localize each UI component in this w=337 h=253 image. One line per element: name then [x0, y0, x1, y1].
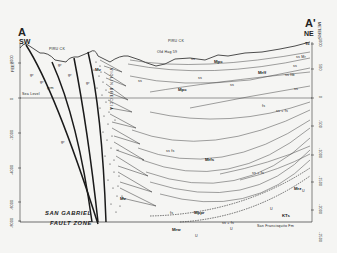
unconformity-u-label: U	[230, 228, 233, 232]
piru-ck-left-label: PIRU CK	[49, 48, 65, 52]
right-axis-unit: METERS	[317, 22, 321, 39]
unit-ss-fs-label: ss + fs	[276, 110, 288, 114]
unit-mrfs-label: Mrfs	[205, 158, 214, 162]
endpoint-a-label: A	[18, 27, 26, 38]
unit-mv-lower-label: Mv	[120, 197, 126, 201]
unit-ss-ftb-label: ss ftb	[285, 74, 295, 78]
right-tick: -2000	[317, 204, 321, 214]
left-axis	[18, 44, 21, 222]
left-tick: -4000	[11, 165, 15, 175]
fault-zone-label-line2: FAULT ZONE	[50, 221, 92, 227]
violin-breccia-label: VIOLIN BRECCIA	[108, 68, 112, 111]
unit-ss-label: fs	[262, 105, 265, 109]
left-tick: -8000	[11, 218, 15, 228]
direction-ne-label: NE	[304, 30, 314, 37]
unit-gr-label: gr	[68, 74, 72, 78]
unit-ss-label: ss	[230, 84, 234, 88]
unconformity-u-label: U	[270, 208, 273, 212]
left-tick: -6000	[11, 200, 15, 210]
unit-mpc-top-label: Mpc	[214, 60, 223, 64]
right-tick: -1500	[317, 176, 321, 186]
fault-zone-label-line1: SAN GABRIEL	[45, 211, 92, 217]
unit-mrw-label: Mrw	[172, 228, 181, 232]
unconformity-u-label: U	[302, 190, 305, 194]
unit-ss-fs-label: ss + fs	[252, 172, 264, 176]
left-tick: -2000	[11, 130, 15, 140]
unit-ss-label: fs	[170, 212, 173, 216]
unit-gr-label: gr	[58, 64, 62, 68]
endpoint-a-prime-label: A'	[305, 18, 316, 29]
right-axis	[311, 42, 314, 222]
right-tick: 1000	[317, 38, 321, 47]
unit-ss-label: ss	[138, 80, 142, 84]
direction-sw-label: SW	[19, 38, 30, 45]
unit-gr-label: gr	[86, 82, 90, 86]
unit-grm-label: grm	[47, 87, 54, 91]
unit-mv-upper-label: Mv	[95, 68, 101, 72]
sea-level-label: Sea Level	[22, 93, 40, 97]
cross-section-figure: A SW A' NE FEET METERS 2000 0 -2000 -400…	[0, 0, 337, 253]
unit-mrz-label: Mrz	[294, 187, 301, 191]
unit-ss-label: ss	[198, 77, 202, 81]
unit-ss-label: ss	[294, 88, 298, 92]
unit-mrff-label: Mrff	[258, 71, 266, 75]
unit-mppr-label: Mppr	[194, 211, 205, 215]
unconformity-u-label: U	[195, 235, 198, 239]
right-tick: -500	[317, 120, 321, 128]
san-francisquito-label: San Francisquito Fm	[257, 225, 294, 229]
unit-tc-label: Tc	[305, 42, 310, 46]
unit-ss-label: ss	[293, 65, 297, 69]
right-tick: -2500	[317, 232, 321, 242]
strata-lines	[128, 52, 310, 202]
unit-ss-label: ss	[191, 58, 195, 62]
left-tick: 2000	[11, 55, 15, 64]
well-label: Old Hag 59	[157, 51, 177, 55]
unit-ss-mr-label: ss Mr	[296, 56, 306, 60]
piru-ck-right-label: PIRU CK	[168, 40, 184, 44]
unit-ss-fs-label: ss + fs	[222, 222, 234, 226]
unit-kts-label: KTs	[282, 214, 290, 218]
right-tick: 0	[317, 96, 321, 98]
unit-ss-fs-label: ss fs	[166, 150, 174, 154]
right-tick: -1000	[317, 148, 321, 158]
unit-gr-label: gr	[61, 141, 65, 145]
left-tick: 0	[11, 98, 15, 100]
unit-gr-label: gr	[40, 81, 44, 85]
unit-mpc-label: Mpc	[178, 88, 187, 92]
fault-lines	[26, 45, 106, 224]
right-tick: 500	[317, 64, 321, 71]
unit-gr-label: gr	[30, 74, 34, 78]
